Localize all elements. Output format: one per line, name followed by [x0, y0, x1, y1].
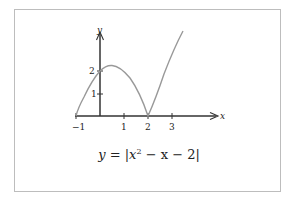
ytick-label-2: 2 — [89, 66, 95, 76]
x-axis-label: x — [220, 111, 225, 121]
equation: y = |x2 − x − 2| — [0, 147, 298, 162]
abs-close: | — [195, 147, 199, 162]
tick-label-1: 1 — [121, 122, 127, 132]
tick-label-neg1: −1 — [72, 122, 85, 132]
tick-label-3: 3 — [169, 122, 175, 132]
tick-label-2: 2 — [145, 122, 151, 132]
eq-sign: = — [106, 147, 125, 162]
eq-rest: − x − 2 — [142, 147, 196, 162]
graph: −1 1 2 3 1 2 x y — [0, 0, 298, 204]
eq-lhs: y — [98, 147, 105, 162]
y-axis-label: y — [96, 25, 103, 35]
ytick-label-1: 1 — [91, 89, 97, 99]
